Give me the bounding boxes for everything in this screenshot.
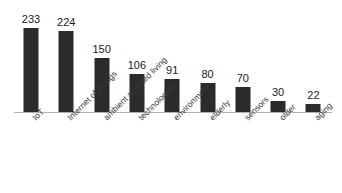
bar-slot: 22 — [296, 0, 330, 112]
x-label-slot: older — [261, 113, 295, 193]
x-label-slot: technologies — [120, 113, 154, 193]
bar-slot: 233 — [14, 0, 48, 112]
bar-chart: 233 224 150 106 91 80 70 30 — [0, 0, 342, 193]
bar-slot: 224 — [49, 0, 83, 112]
bar[interactable] — [24, 28, 39, 112]
bar-value-label: 91 — [166, 65, 178, 76]
x-label-slot: aging — [296, 113, 330, 193]
x-label-slot: elderly — [191, 113, 225, 193]
bar-value-label: 70 — [237, 73, 249, 84]
plot-area: 233 224 150 106 91 80 70 30 — [14, 0, 332, 112]
bar[interactable] — [59, 31, 74, 112]
bar-value-label: 22 — [307, 90, 319, 101]
bar-value-label: 233 — [22, 14, 40, 25]
x-label-slot: IoT — [14, 113, 48, 193]
bar-slot: 30 — [261, 0, 295, 112]
x-axis-labels: IoT Internet of Things ambient assisted … — [14, 113, 332, 193]
bar-value-label: 30 — [272, 87, 284, 98]
bar-value-label: 224 — [57, 17, 75, 28]
bar-value-label: 80 — [201, 69, 213, 80]
x-label-slot: sensors — [226, 113, 260, 193]
bar-value-label: 150 — [92, 44, 110, 55]
x-label-slot: ambient assisted living — [85, 113, 119, 193]
x-label-slot: environment — [155, 113, 189, 193]
bar-value-label: 106 — [128, 60, 146, 71]
x-label-slot: Internet of Things — [49, 113, 83, 193]
bar-slot: 70 — [226, 0, 260, 112]
